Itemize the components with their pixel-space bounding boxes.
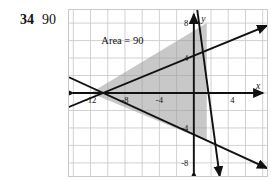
coordinate-graph: -12-8-4484-4-8xyArea = 90 — [68, 9, 268, 177]
x-tick-label--4: -4 — [156, 95, 164, 105]
y-tick-label-4: 4 — [184, 53, 189, 63]
page-bleed-text: · · · · · · · · · · · · · · · — [60, 0, 271, 5]
y-tick-label-8: 8 — [184, 18, 188, 28]
figure-root: · · · · · · · · · · · · · · · 34 90 -12-… — [0, 0, 271, 180]
x-axis-label: x — [255, 81, 261, 91]
problem-number: 34 — [20, 12, 34, 28]
y-axis-label: y — [200, 14, 206, 24]
area-annotation: Area = 90 — [101, 35, 143, 46]
x-tick-label--8: -8 — [121, 95, 128, 105]
x-tick-label-4: 4 — [230, 95, 235, 105]
y-tick-label--4: -4 — [181, 123, 189, 133]
problem-answer: 90 — [42, 12, 56, 28]
y-tick-label--8: -8 — [181, 158, 188, 168]
x-tick-label--12: -12 — [85, 95, 96, 105]
plot-svg: -12-8-4484-4-8xyArea = 90 — [69, 10, 267, 176]
